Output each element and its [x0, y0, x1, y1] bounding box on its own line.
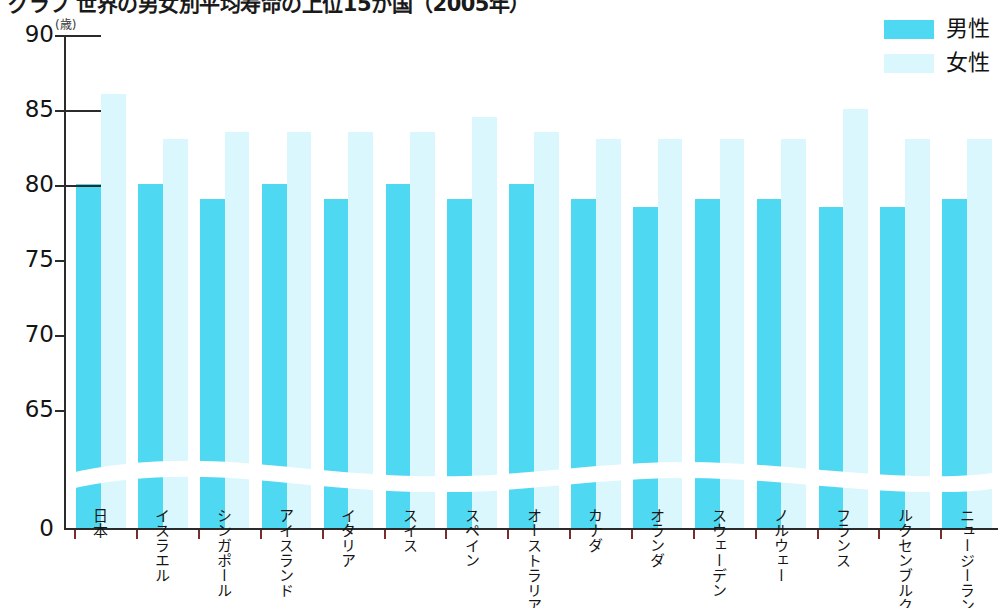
x-axis-label-4: イタリア	[339, 508, 355, 606]
x-axis-label-0: 日本	[92, 508, 108, 606]
bar-group	[757, 34, 806, 528]
bar-female	[410, 132, 435, 529]
bar-male	[819, 207, 844, 529]
bar-group	[819, 34, 868, 528]
x-tick-13	[878, 530, 880, 539]
bar-female	[348, 132, 373, 529]
y-axis-unit-label: (歳)	[55, 15, 76, 32]
y-tick-80	[55, 185, 101, 187]
y-axis-label-70: 70	[8, 321, 54, 347]
bar-male	[324, 199, 349, 528]
bar-group	[880, 34, 929, 528]
bar-male	[757, 199, 782, 528]
bar-female	[843, 109, 868, 528]
x-tick-5	[384, 530, 386, 539]
y-axis-label-0: 0	[8, 515, 54, 541]
bar-male	[447, 199, 472, 528]
bar-group	[324, 34, 373, 528]
bar-group	[942, 34, 991, 528]
x-tick-10	[693, 530, 695, 539]
y-tick-90	[55, 35, 101, 37]
bar-male	[571, 199, 596, 528]
x-axis-label-7: オーストラリア	[525, 508, 541, 606]
bar-female	[905, 139, 930, 528]
y-axis-label-65: 65	[8, 396, 54, 422]
x-tick-4	[322, 530, 324, 539]
x-tick-7	[507, 530, 509, 539]
y-tick-85	[55, 110, 101, 112]
x-tick-0	[74, 530, 76, 539]
x-axis-label-6: スペイン	[463, 508, 479, 606]
y-tick-65	[55, 410, 66, 412]
x-tick-3	[260, 530, 262, 539]
x-tick-8	[569, 530, 571, 539]
bar-group	[262, 34, 311, 528]
x-axis-label-2: シンガポール	[216, 508, 232, 606]
bar-female	[720, 139, 745, 528]
bar-female	[163, 139, 188, 528]
x-tick-2	[198, 530, 200, 539]
x-axis-label-13: ルクセンブルク	[896, 508, 912, 606]
bar-female	[287, 132, 312, 529]
bar-group	[386, 34, 435, 528]
x-tick-9	[631, 530, 633, 539]
bar-male	[76, 184, 101, 528]
bar-female	[534, 132, 559, 529]
bar-female	[658, 139, 683, 528]
bar-group	[571, 34, 620, 528]
x-axis-label-1: イスラエル	[154, 508, 170, 606]
x-tick-14	[940, 530, 942, 539]
y-tick-75	[55, 260, 66, 262]
bar-female	[596, 139, 621, 528]
bar-group	[200, 34, 249, 528]
x-tick-6	[445, 530, 447, 539]
bar-female	[472, 117, 497, 529]
x-axis-label-8: カナダ	[587, 508, 603, 606]
x-tick-12	[817, 530, 819, 539]
page-title: グラフ 世界の男女別平均寿命の上位15か国（2005年）	[8, 0, 530, 17]
bar-group	[76, 34, 125, 528]
bar-group	[138, 34, 187, 528]
bar-male	[138, 184, 163, 528]
x-tick-11	[755, 530, 757, 539]
x-axis-label-10: スウェーデン	[711, 508, 727, 606]
x-tick-1	[136, 530, 138, 539]
bar-female	[225, 132, 250, 529]
y-axis-label-75: 75	[8, 246, 54, 272]
y-axis-label-80: 80	[8, 171, 54, 197]
bar-male	[200, 199, 225, 528]
bar-group	[633, 34, 682, 528]
bar-male	[386, 184, 411, 528]
x-axis-label-3: アイスランド	[278, 508, 294, 606]
bar-male	[880, 207, 905, 529]
y-axis-label-85: 85	[8, 96, 54, 122]
bar-group	[695, 34, 744, 528]
bar-male	[695, 199, 720, 528]
bar-female	[101, 94, 126, 528]
bar-male	[262, 184, 287, 528]
bar-male	[942, 199, 967, 528]
plot-area	[64, 36, 998, 530]
x-axis-label-9: オランダ	[649, 508, 665, 606]
x-axis-label-12: フランス	[834, 508, 850, 606]
bar-group	[509, 34, 558, 528]
bar-male	[633, 207, 658, 529]
x-axis-label-11: ノルウェー	[772, 508, 788, 606]
bar-group	[447, 34, 496, 528]
bar-male	[509, 184, 534, 528]
y-axis-label-90: 90	[8, 21, 54, 47]
chart-container: グラフ 世界の男女別平均寿命の上位15か国（2005年） (歳) 男性 女性 日…	[0, 0, 1002, 608]
x-axis-label-5: スイス	[401, 508, 417, 606]
bar-female	[781, 139, 806, 528]
y-tick-70	[55, 335, 66, 337]
x-axis-label-14: ニュージーランド	[958, 508, 974, 606]
bar-female	[967, 139, 992, 528]
